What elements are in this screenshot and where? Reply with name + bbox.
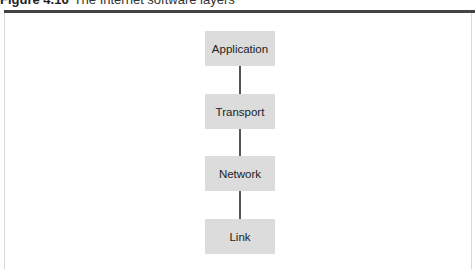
layer-label: Link [229, 231, 250, 243]
layer-network: Network [205, 156, 275, 191]
figure-caption: Figure 4.16The Internet software layers [0, 0, 235, 8]
layer-application: Application [205, 31, 275, 66]
layer-link: Link [205, 219, 275, 254]
connector-transport-network [239, 129, 241, 156]
figure-title: The Internet software layers [74, 0, 235, 7]
layer-label: Application [212, 43, 268, 55]
layer-transport: Transport [205, 94, 275, 129]
connector-network-link [239, 191, 241, 219]
figure-number: Figure 4.16 [0, 0, 69, 7]
layer-label: Network [219, 168, 261, 180]
layer-label: Transport [216, 106, 265, 118]
connector-application-transport [239, 66, 241, 94]
